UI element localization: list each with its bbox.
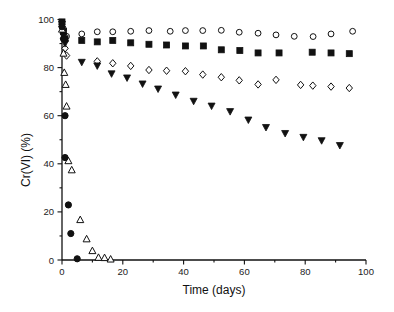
- data-point: [172, 92, 179, 99]
- data-point: [110, 60, 116, 67]
- data-point: [94, 39, 100, 45]
- y-axis-title: Cr(VI) (%): [19, 133, 33, 187]
- x-tick-label: 80: [300, 266, 311, 277]
- data-point: [346, 84, 352, 91]
- data-point: [300, 134, 307, 141]
- data-point: [255, 81, 261, 88]
- data-point: [62, 81, 69, 88]
- series-open-triangle-up: [59, 26, 115, 262]
- data-point: [255, 50, 261, 56]
- data-point: [62, 113, 68, 119]
- data-point: [227, 109, 234, 116]
- data-point: [110, 37, 116, 43]
- data-point: [128, 40, 134, 46]
- data-point: [128, 62, 134, 69]
- data-point: [328, 50, 334, 56]
- data-point: [350, 28, 356, 34]
- data-point: [310, 82, 316, 89]
- data-point: [218, 27, 224, 33]
- data-point: [146, 41, 152, 47]
- data-point: [60, 36, 66, 42]
- data-point: [101, 254, 108, 261]
- data-point: [68, 230, 74, 236]
- data-point: [59, 24, 65, 30]
- data-point: [262, 124, 269, 131]
- y-tick-label: 80: [43, 62, 54, 73]
- data-point: [273, 76, 279, 83]
- data-point: [336, 143, 343, 150]
- data-point: [236, 29, 242, 35]
- data-point: [291, 33, 297, 39]
- data-point: [276, 50, 282, 56]
- x-tick-label: 20: [118, 266, 129, 277]
- data-point: [164, 42, 170, 48]
- data-point: [200, 71, 206, 78]
- data-point: [124, 75, 131, 82]
- data-point: [310, 34, 316, 40]
- data-point: [208, 103, 215, 110]
- data-point: [79, 37, 85, 43]
- data-point: [95, 254, 102, 260]
- y-tick-label: 40: [43, 158, 54, 169]
- data-point: [200, 28, 206, 34]
- scatter-chart: 020406080100 020406080100 Cr(VI) (%) Tim…: [0, 0, 394, 312]
- series-open-diamond: [59, 23, 353, 92]
- data-point: [182, 43, 188, 49]
- x-tick-label: 0: [59, 266, 64, 277]
- y-tick-label: 100: [38, 14, 54, 25]
- data-point: [146, 28, 152, 34]
- data-point: [236, 77, 242, 84]
- x-tick-label: 60: [239, 266, 250, 277]
- data-point: [79, 31, 85, 37]
- data-point: [128, 28, 134, 34]
- data-point: [77, 216, 84, 223]
- data-point: [273, 32, 279, 38]
- y-axis: 020406080100: [38, 14, 62, 266]
- data-point: [65, 202, 71, 208]
- data-point: [62, 154, 68, 160]
- data-point: [318, 138, 325, 145]
- y-tick-label: 60: [43, 110, 54, 121]
- data-point: [155, 86, 162, 93]
- data-point: [328, 31, 334, 37]
- data-point: [89, 247, 96, 254]
- data-point: [146, 66, 152, 73]
- data-point: [68, 166, 75, 173]
- data-point: [190, 98, 197, 105]
- data-point: [167, 28, 173, 34]
- series-filled-square: [59, 19, 352, 57]
- data-point: [200, 43, 206, 49]
- x-axis-title: Time (days): [183, 283, 246, 297]
- x-axis: 020406080100: [59, 260, 374, 277]
- x-tick-label: 40: [178, 266, 189, 277]
- data-point: [328, 83, 334, 90]
- y-tick-label: 0: [49, 255, 54, 266]
- data-point: [78, 59, 85, 66]
- plot-area: [59, 19, 356, 262]
- data-point: [108, 71, 115, 78]
- x-tick-label: 100: [358, 266, 374, 277]
- data-point: [282, 130, 289, 137]
- data-point: [297, 81, 303, 88]
- data-point: [182, 68, 188, 75]
- data-point: [94, 63, 101, 69]
- data-point: [107, 256, 114, 263]
- data-point: [110, 29, 116, 35]
- data-point: [237, 48, 243, 54]
- data-point: [346, 51, 352, 57]
- data-point: [309, 49, 315, 55]
- data-point: [94, 29, 100, 35]
- data-point: [218, 74, 224, 81]
- data-point: [63, 103, 70, 110]
- data-point: [183, 28, 189, 34]
- data-point: [139, 81, 146, 88]
- data-point: [255, 30, 261, 36]
- data-point: [83, 235, 90, 242]
- data-point: [163, 67, 169, 74]
- data-point: [218, 47, 224, 53]
- data-point: [74, 256, 80, 262]
- y-tick-label: 20: [43, 206, 54, 217]
- data-point: [245, 117, 252, 124]
- series-open-circle: [59, 21, 355, 39]
